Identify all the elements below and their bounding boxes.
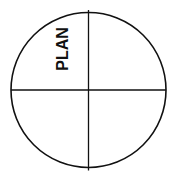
quadrant-label-plan: PLAN xyxy=(54,27,71,71)
quadrant-diagram: PLAN xyxy=(0,0,169,182)
